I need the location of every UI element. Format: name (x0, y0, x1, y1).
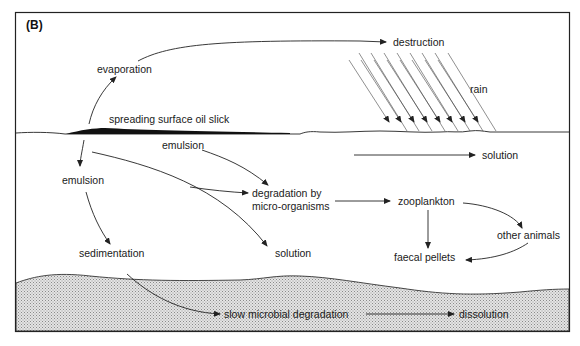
label-degradation-line1: degradation by (252, 187, 322, 199)
oil-slick (66, 128, 290, 134)
label-destruction: destruction (393, 36, 445, 48)
arrow-emulsion-to-sedimentation (86, 192, 110, 244)
label-rain: rain (470, 83, 488, 95)
rain-line (359, 53, 407, 131)
oil-fate-diagram: (B) evaporation destruction rain spreadi… (0, 0, 580, 346)
arrow-slick-to-emulsion (80, 140, 84, 166)
label-emulsion-top: emulsion (162, 139, 204, 151)
label-solution-right: solution (482, 149, 518, 161)
label-solution-mid: solution (275, 247, 311, 259)
panel-label: (B) (26, 18, 43, 32)
arrow-branch-to-degradation (190, 187, 248, 193)
rain-line (410, 53, 458, 131)
label-degradation-line2: micro-organisms (252, 200, 330, 212)
label-slow-microbial-degradation: slow microbial degradation (224, 308, 348, 320)
arrow-other-animals-to-faecal-pellets (466, 243, 528, 260)
label-sedimentation: sedimentation (79, 247, 145, 259)
label-zooplankton: zooplankton (398, 195, 455, 207)
label-dissolution: dissolution (459, 308, 509, 320)
label-other-animals: other animals (497, 229, 560, 241)
label-evaporation: evaporation (97, 63, 152, 75)
seabed-sediment (16, 274, 569, 331)
arrow-zooplankton-to-other-animals (463, 203, 522, 228)
arrow-emulsion-to-degradation (202, 150, 268, 185)
label-spreading-surface-oil-slick: spreading surface oil slick (109, 113, 230, 125)
arrow-evaporation-to-destruction (138, 41, 386, 61)
label-emulsion-left: emulsion (62, 174, 104, 186)
label-faecal-pellets: faecal pellets (394, 251, 455, 263)
